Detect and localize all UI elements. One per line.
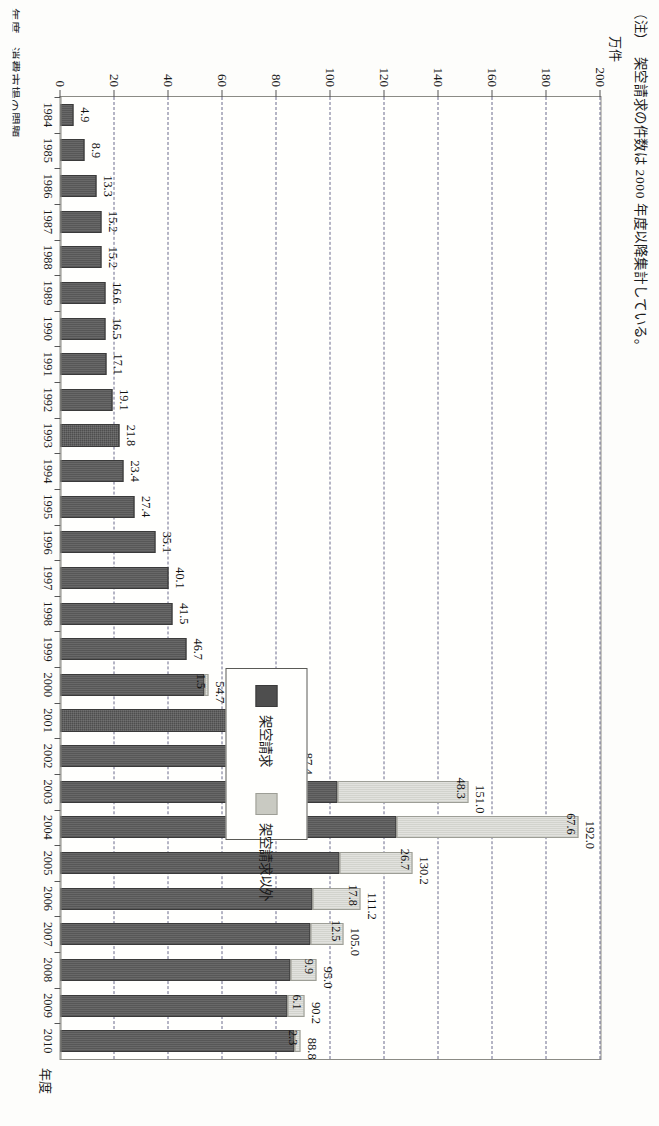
category-axis-tick [54, 631, 60, 632]
bar[interactable] [60, 638, 186, 660]
data-label-fictitious: 40.1 [173, 567, 185, 588]
category-axis-tick [54, 346, 60, 347]
category-axis-tick [54, 275, 60, 276]
category-axis-tick [54, 845, 60, 846]
value-axis-tick-label: 200 [594, 68, 607, 88]
bar[interactable] [60, 246, 101, 268]
value-axis-tick [59, 90, 60, 97]
bar[interactable] [60, 995, 304, 1017]
bar[interactable] [60, 139, 84, 161]
category-axis-tick-label: 2008 [41, 958, 53, 983]
category-axis-tick [54, 240, 60, 241]
data-label-total: 90.2 [308, 1002, 321, 1024]
bar-segment-fictitious [60, 353, 106, 375]
bar-segment-fictitious [60, 1030, 294, 1052]
category-axis-tick [54, 311, 60, 312]
data-label-other: 67.6 [564, 813, 576, 834]
bar-segment-fictitious [60, 923, 310, 945]
bar[interactable] [60, 959, 317, 981]
bar-segment-fictitious [60, 424, 119, 446]
gridline [275, 97, 276, 1059]
category-axis-tick-label: 1998 [41, 601, 53, 626]
category-axis-tick-label: 1986 [41, 174, 53, 199]
data-label-fictitious: 41.5 [177, 603, 189, 624]
data-label-fictitious: 16.6 [110, 282, 122, 303]
data-label-total: 88.8 [304, 1038, 317, 1060]
bar[interactable] [60, 318, 105, 340]
value-axis-tick-label: 160 [486, 68, 499, 88]
bar[interactable] [60, 567, 168, 589]
bar[interactable] [60, 282, 105, 304]
bar-segment-fictitious [60, 139, 84, 161]
category-axis-tick [54, 525, 60, 526]
bar-segment-fictitious [60, 496, 134, 518]
data-label-fictitious: 15.2 [106, 247, 118, 268]
legend-label: 架空請求 [256, 715, 276, 767]
category-axis-tick-label: 1996 [41, 530, 53, 555]
value-axis-tick-label: 180 [540, 68, 553, 88]
value-axis-tick [113, 90, 114, 97]
bar[interactable] [60, 888, 360, 910]
bar-segment-fictitious [60, 638, 186, 660]
bar[interactable] [60, 709, 237, 731]
data-label-other: 6.1 [289, 994, 301, 1009]
category-axis-tick [54, 952, 60, 953]
bar[interactable] [60, 389, 112, 411]
category-axis-tick [54, 133, 60, 134]
data-label-other: 12.5 [329, 920, 341, 941]
bar[interactable] [60, 531, 155, 553]
gridline [491, 97, 492, 1059]
category-axis-tick [54, 916, 60, 917]
bar-segment-fictitious [60, 603, 172, 625]
bar-segment-fictitious [60, 175, 96, 197]
legend-item: 架空請求 [255, 685, 277, 767]
legend-swatch-other [255, 793, 277, 815]
data-label-fictitious: 4.9 [78, 107, 90, 122]
bar[interactable] [60, 175, 96, 197]
bar[interactable] [60, 852, 412, 874]
data-label-other: 2.3 [286, 1030, 298, 1045]
data-label-total: 192.0 [583, 821, 596, 849]
category-axis-tick [54, 382, 60, 383]
bar[interactable] [60, 211, 101, 233]
category-axis-tick [54, 810, 60, 811]
bar[interactable] [60, 424, 119, 446]
data-label-fictitious: 13.3 [101, 175, 113, 196]
category-axis-tick [54, 453, 60, 454]
note-marker: （注） [632, 6, 647, 47]
bar[interactable] [60, 460, 123, 482]
bar-segment-fictitious [60, 531, 155, 553]
data-label-fictitious: 46.7 [191, 639, 203, 660]
value-axis-tick [491, 90, 492, 97]
bar-segment-fictitious [60, 852, 339, 874]
category-axis-tick [54, 204, 60, 205]
bar-segment-fictitious [60, 959, 290, 981]
data-label-other: 9.9 [302, 959, 314, 974]
data-label-total: 95.0 [321, 966, 334, 988]
bar[interactable] [60, 674, 208, 696]
bar[interactable] [60, 353, 106, 375]
gridline [383, 97, 384, 1059]
bar[interactable] [60, 923, 344, 945]
category-axis-tick-label: 1995 [41, 494, 53, 519]
rotated-figure-stage: （注）架空請求の件数は 2000 年度以降集計している。 万件 02040608… [0, 0, 659, 1126]
bar[interactable] [60, 496, 134, 518]
data-label-fictitious: 27.4 [139, 496, 151, 517]
data-label-fictitious: 35.1 [160, 532, 172, 553]
category-axis-tick-label: 1988 [41, 245, 53, 270]
data-label-total: 130.2 [416, 856, 429, 884]
value-axis-tick [329, 90, 330, 97]
bar[interactable] [60, 1030, 300, 1052]
category-axis-tick [54, 667, 60, 668]
value-axis-tick [437, 90, 438, 97]
data-label-fictitious: 21.8 [124, 425, 136, 446]
bar[interactable] [60, 104, 73, 126]
bar-segment-fictitious [60, 567, 168, 589]
data-label-other: 1.5 [194, 674, 206, 689]
bar[interactable] [60, 603, 172, 625]
data-label-fictitious: 8.9 [89, 143, 101, 158]
data-label-other: 17.8 [346, 884, 358, 905]
category-axis-tick [54, 489, 60, 490]
bar-segment-fictitious [60, 674, 204, 696]
bar[interactable] [60, 816, 578, 838]
